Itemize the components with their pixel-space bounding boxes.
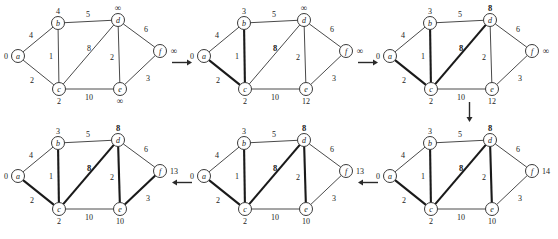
node-label-b: b xyxy=(242,19,246,28)
node-c: c xyxy=(53,203,66,216)
edge-e-f xyxy=(497,55,528,84)
node-distance-f: 14 xyxy=(542,167,550,176)
node-d: d xyxy=(298,134,311,147)
edge-weight-e-f: 3 xyxy=(332,74,336,83)
node-e: e xyxy=(486,203,499,216)
node-d: d xyxy=(484,14,497,27)
edge-weight-b-c: 1 xyxy=(421,52,425,61)
node-distance-c: 2 xyxy=(429,217,433,226)
edge-e-f xyxy=(125,175,156,204)
edge-weight-b-d: 5 xyxy=(458,10,462,19)
graph-panel-step-4: 4215810263a0b3c2d8e10f14 xyxy=(372,120,558,239)
node-c: c xyxy=(239,203,252,216)
node-distance-e: 10 xyxy=(116,217,124,226)
edge-weight-a-c: 2 xyxy=(30,76,34,85)
node-distance-c: 2 xyxy=(429,97,433,106)
node-distance-e: 12 xyxy=(302,97,310,106)
node-c: c xyxy=(425,203,438,216)
edge-a-c xyxy=(209,60,240,85)
node-label-e: e xyxy=(304,205,308,214)
edge-c-d xyxy=(249,145,300,204)
node-label-a: a xyxy=(388,52,392,61)
node-label-e: e xyxy=(118,205,122,214)
node-b: b xyxy=(424,137,437,150)
edge-a-b xyxy=(209,147,239,172)
node-distance-b: 4 xyxy=(56,7,60,16)
node-distance-b: 3 xyxy=(242,127,246,136)
edge-weight-d-e: 2 xyxy=(296,53,300,62)
edge-weight-c-e: 10 xyxy=(457,213,465,222)
node-e: e xyxy=(300,203,313,216)
edge-weight-a-b: 4 xyxy=(401,151,405,160)
node-label-c: c xyxy=(57,205,61,214)
edge-b-d xyxy=(436,20,483,22)
edge-b-d xyxy=(250,20,297,22)
edge-weight-a-c: 2 xyxy=(216,76,220,85)
graph-svg: 4215810263a0b3c2d∞e12f∞ xyxy=(186,0,372,119)
edge-e-f xyxy=(125,55,156,84)
edge-d-f xyxy=(309,144,341,167)
edge-e-f xyxy=(311,55,342,84)
arrow-1-to-2-icon xyxy=(172,58,192,67)
node-distance-a: 0 xyxy=(4,172,8,181)
node-e: e xyxy=(114,203,127,216)
edge-weight-a-b: 4 xyxy=(401,31,405,40)
edge-c-d xyxy=(63,25,114,84)
edge-weight-b-d: 5 xyxy=(458,130,462,139)
edge-a-b xyxy=(209,27,239,52)
node-d: d xyxy=(298,14,311,27)
edge-b-d xyxy=(436,140,483,142)
node-distance-d: ∞ xyxy=(115,3,121,13)
node-a: a xyxy=(384,170,397,183)
edge-a-c xyxy=(395,180,426,205)
edge-weight-c-d: 8 xyxy=(87,163,91,173)
node-distance-f: ∞ xyxy=(171,46,177,56)
edge-a-b xyxy=(395,147,425,172)
edge-weight-e-f: 3 xyxy=(332,194,336,203)
node-label-e: e xyxy=(304,85,308,94)
node-label-a: a xyxy=(388,172,392,181)
edge-weight-e-f: 3 xyxy=(146,74,150,83)
edge-weight-d-e: 2 xyxy=(296,173,300,182)
edge-d-e xyxy=(118,26,120,82)
node-distance-c: 2 xyxy=(57,217,61,226)
node-a: a xyxy=(12,170,25,183)
edge-a-b xyxy=(23,147,53,172)
edge-weight-e-f: 3 xyxy=(518,74,522,83)
edge-weight-b-c: 1 xyxy=(49,52,53,61)
node-distance-e: 10 xyxy=(302,217,310,226)
graph-svg: 4215810263a0b3c2d8e10f13 xyxy=(186,120,372,239)
node-label-c: c xyxy=(57,85,61,94)
edge-b-d xyxy=(64,140,111,142)
edge-weight-a-b: 4 xyxy=(215,31,219,40)
node-label-a: a xyxy=(16,172,20,181)
node-label-e: e xyxy=(490,85,494,94)
node-f: f xyxy=(154,45,167,58)
edge-weight-d-e: 2 xyxy=(482,53,486,62)
node-distance-e: 10 xyxy=(488,217,496,226)
node-c: c xyxy=(425,83,438,96)
edge-weight-d-f: 6 xyxy=(144,25,148,34)
node-e: e xyxy=(114,83,127,96)
edge-weight-c-d: 8 xyxy=(273,163,277,173)
edge-b-c xyxy=(58,29,59,82)
node-b: b xyxy=(52,17,65,30)
edge-weight-d-f: 6 xyxy=(330,145,334,154)
edge-weight-d-f: 6 xyxy=(516,145,520,154)
edge-e-f xyxy=(311,175,342,204)
graph-svg: 4215810263a0b3c2d8e10f14 xyxy=(372,120,558,239)
node-distance-d: 8 xyxy=(302,123,306,133)
node-f: f xyxy=(340,165,353,178)
node-b: b xyxy=(238,17,251,30)
edge-weight-c-e: 10 xyxy=(271,93,279,102)
edge-weight-e-f: 3 xyxy=(146,194,150,203)
edge-a-c xyxy=(209,180,240,205)
edge-weight-c-d: 8 xyxy=(87,44,91,53)
node-distance-d: 8 xyxy=(488,123,492,133)
node-e: e xyxy=(486,83,499,96)
graph-svg: 4215810263a0b3c2d8e10f13 xyxy=(0,120,186,239)
node-c: c xyxy=(239,83,252,96)
node-distance-d: 8 xyxy=(488,3,492,13)
edge-weight-b-d: 5 xyxy=(86,10,90,19)
edge-weight-d-e: 2 xyxy=(110,53,114,62)
